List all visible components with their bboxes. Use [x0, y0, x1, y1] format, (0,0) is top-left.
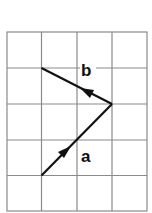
grid: [7, 32, 147, 211]
vector-b-arrowhead-icon: [80, 88, 94, 98]
label-b: b: [81, 61, 91, 80]
label-a: a: [81, 147, 91, 166]
vector-grid-diagram: b a: [0, 0, 152, 213]
